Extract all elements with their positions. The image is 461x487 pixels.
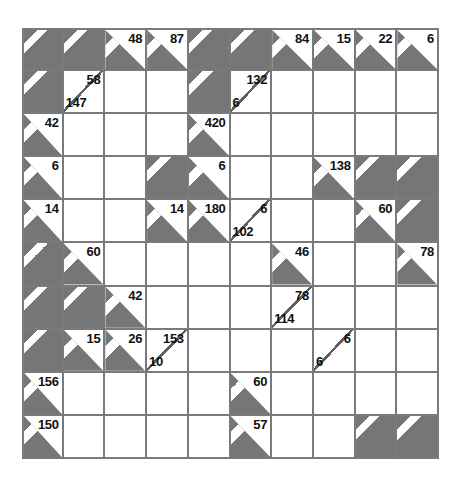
entry-cell[interactable] xyxy=(64,200,106,243)
blocked-cell xyxy=(397,200,439,243)
blocked-cell xyxy=(356,416,398,459)
clue-cell: 48 xyxy=(105,28,147,71)
clue-across-value: 42 xyxy=(128,289,142,302)
entry-cell[interactable] xyxy=(189,373,231,416)
entry-cell[interactable] xyxy=(272,71,314,114)
entry-cell[interactable] xyxy=(64,416,106,459)
clue-across-value: 26 xyxy=(128,332,142,345)
clue-down-value: 6 xyxy=(260,202,267,215)
entry-cell[interactable] xyxy=(105,114,147,157)
clue-cell: 26 xyxy=(105,330,147,373)
clue-down-value: 78 xyxy=(295,289,309,302)
entry-cell[interactable] xyxy=(105,200,147,243)
blocked-cell xyxy=(22,287,64,330)
entry-cell[interactable] xyxy=(397,287,439,330)
entry-cell[interactable] xyxy=(356,330,398,373)
entry-cell[interactable] xyxy=(272,114,314,157)
entry-cell[interactable] xyxy=(272,157,314,200)
blocked-cell xyxy=(22,28,64,71)
clue-cell: 78 xyxy=(397,243,439,286)
clue-across-value: 420 xyxy=(205,116,226,129)
entry-cell[interactable] xyxy=(105,243,147,286)
clue-cell: 46 xyxy=(272,243,314,286)
entry-cell[interactable] xyxy=(105,157,147,200)
split-clue-cell: 6102 xyxy=(231,200,273,243)
clue-across-value: 6 xyxy=(52,159,59,172)
clue-down-value: 84 xyxy=(295,32,309,45)
clue-cell: 22 xyxy=(356,28,398,71)
kakuro-grid: 4887841522658147132642420661381414180610… xyxy=(22,28,439,459)
clue-cell: 15 xyxy=(64,330,106,373)
entry-cell[interactable] xyxy=(147,287,189,330)
entry-cell[interactable] xyxy=(397,114,439,157)
entry-cell[interactable] xyxy=(189,287,231,330)
entry-cell[interactable] xyxy=(356,287,398,330)
clue-down-value: 87 xyxy=(170,32,184,45)
clue-down-value: 15 xyxy=(337,32,351,45)
entry-cell[interactable] xyxy=(397,330,439,373)
clue-cell: 420 xyxy=(189,114,231,157)
entry-cell[interactable] xyxy=(314,416,356,459)
clue-across-value: 42 xyxy=(45,116,59,129)
entry-cell[interactable] xyxy=(314,373,356,416)
clue-cell: 84 xyxy=(272,28,314,71)
entry-cell[interactable] xyxy=(272,373,314,416)
entry-cell[interactable] xyxy=(272,330,314,373)
split-clue-cell: 66 xyxy=(314,330,356,373)
blocked-cell xyxy=(64,28,106,71)
entry-cell[interactable] xyxy=(314,243,356,286)
entry-cell[interactable] xyxy=(147,373,189,416)
entry-cell[interactable] xyxy=(314,200,356,243)
entry-cell[interactable] xyxy=(64,114,106,157)
clue-cell: 156 xyxy=(22,373,64,416)
clue-across-value: 14 xyxy=(170,202,184,215)
entry-cell[interactable] xyxy=(272,416,314,459)
entry-cell[interactable] xyxy=(231,287,273,330)
entry-cell[interactable] xyxy=(189,330,231,373)
clue-down-value: 6 xyxy=(344,332,351,345)
entry-cell[interactable] xyxy=(356,71,398,114)
entry-cell[interactable] xyxy=(105,373,147,416)
clue-across-value: 15 xyxy=(87,332,101,345)
clue-cell: 150 xyxy=(22,416,64,459)
entry-cell[interactable] xyxy=(105,416,147,459)
split-clue-cell: 58147 xyxy=(64,71,106,114)
entry-cell[interactable] xyxy=(105,71,147,114)
split-clue-cell: 1326 xyxy=(231,71,273,114)
kakuro-puzzle: 4887841522658147132642420661381414180610… xyxy=(22,28,439,459)
entry-cell[interactable] xyxy=(147,71,189,114)
entry-cell[interactable] xyxy=(231,243,273,286)
clue-across-value: 10 xyxy=(149,355,163,368)
clue-across-value: 14 xyxy=(45,202,59,215)
entry-cell[interactable] xyxy=(147,243,189,286)
clue-across-value: 102 xyxy=(233,225,254,238)
entry-cell[interactable] xyxy=(356,243,398,286)
clue-across-value: 114 xyxy=(274,312,294,325)
entry-cell[interactable] xyxy=(314,287,356,330)
entry-cell[interactable] xyxy=(189,416,231,459)
entry-cell[interactable] xyxy=(397,71,439,114)
clue-cell: 6 xyxy=(189,157,231,200)
clue-cell: 14 xyxy=(22,200,64,243)
entry-cell[interactable] xyxy=(231,114,273,157)
entry-cell[interactable] xyxy=(356,373,398,416)
entry-cell[interactable] xyxy=(231,330,273,373)
entry-cell[interactable] xyxy=(272,200,314,243)
entry-cell[interactable] xyxy=(147,416,189,459)
entry-cell[interactable] xyxy=(147,114,189,157)
entry-cell[interactable] xyxy=(231,157,273,200)
clue-across-value: 60 xyxy=(87,245,101,258)
clue-down-value: 6 xyxy=(427,32,434,45)
entry-cell[interactable] xyxy=(314,71,356,114)
split-clue-cell: 15310 xyxy=(147,330,189,373)
clue-across-value: 180 xyxy=(205,202,226,215)
entry-cell[interactable] xyxy=(314,114,356,157)
clue-across-value: 78 xyxy=(420,245,434,258)
entry-cell[interactable] xyxy=(189,243,231,286)
entry-cell[interactable] xyxy=(397,373,439,416)
entry-cell[interactable] xyxy=(64,373,106,416)
clue-down-value: 153 xyxy=(163,332,184,345)
entry-cell[interactable] xyxy=(64,157,106,200)
entry-cell[interactable] xyxy=(356,114,398,157)
clue-cell: 60 xyxy=(231,373,273,416)
